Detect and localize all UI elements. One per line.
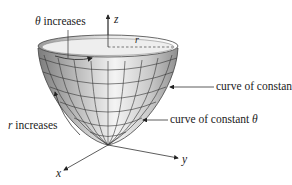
y-axis <box>108 145 178 158</box>
x-axis-label: x <box>56 168 61 180</box>
y-axis-label: y <box>182 154 187 166</box>
z-axis-label: z <box>114 14 118 26</box>
paraboloid-diagram <box>0 0 292 185</box>
curve-constant-theta-label: curve of constant θ <box>170 114 258 126</box>
theta-increases-label: θ increases <box>35 16 86 28</box>
x-axis <box>64 145 108 170</box>
r-increases-label: r increases <box>8 120 58 132</box>
radius-label: r <box>135 35 139 45</box>
curve-constant-r-label: curve of constant r <box>216 81 292 93</box>
